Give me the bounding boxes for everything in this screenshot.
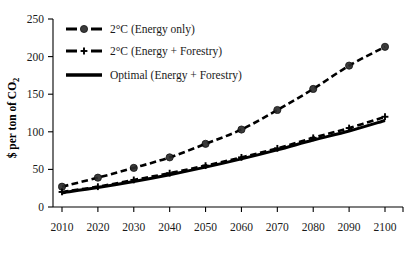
data-point-marker <box>166 154 173 161</box>
y-tick-label: 150 <box>27 88 45 100</box>
x-tick-label: 2040 <box>158 221 181 233</box>
data-point-marker <box>274 106 281 113</box>
data-point-marker <box>238 126 245 133</box>
x-tick-label: 2100 <box>374 221 397 233</box>
x-tick-label: 2060 <box>230 221 253 233</box>
x-tick-label: 2080 <box>302 221 325 233</box>
chart-container: 050100150200250 201020202030204020502060… <box>0 0 412 257</box>
x-tick-label: 2020 <box>86 221 109 233</box>
y-tick-label: 0 <box>38 201 44 213</box>
data-point-marker <box>381 43 388 50</box>
data-point-marker <box>130 164 137 171</box>
data-point-marker <box>94 174 101 181</box>
legend-item-label: 2°C (Energy only) <box>110 23 195 36</box>
y-tick-label: 250 <box>27 13 45 25</box>
x-tick-label: 2030 <box>122 221 145 233</box>
y-axis-title-subscript: 2 <box>11 78 21 82</box>
legend-item-label: Optimal (Energy + Forestry) <box>110 69 242 82</box>
legend-item-label: 2°C (Energy + Forestry) <box>110 45 222 58</box>
data-point-marker <box>310 85 317 92</box>
data-point-marker <box>202 140 209 147</box>
y-tick-label: 100 <box>27 126 45 138</box>
y-tick-label: 50 <box>33 163 45 175</box>
x-tick-label: 2090 <box>338 221 361 233</box>
line-chart: 050100150200250 201020202030204020502060… <box>0 0 412 257</box>
y-tick-label: 200 <box>27 51 45 63</box>
y-axis-title-main: $ per ton of CO <box>6 82 19 159</box>
data-point-marker <box>346 62 353 69</box>
x-tick-label: 2050 <box>194 221 217 233</box>
x-tick-label: 2010 <box>51 221 74 233</box>
data-point-marker <box>80 25 87 32</box>
x-tick-label: 2070 <box>266 221 289 233</box>
